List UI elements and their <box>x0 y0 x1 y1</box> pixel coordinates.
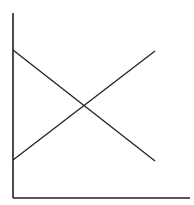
diagram-canvas <box>0 0 194 205</box>
